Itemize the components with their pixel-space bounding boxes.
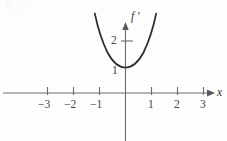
curve-label: f ′ (131, 11, 140, 23)
graph-figure: f ′ x 2 1 −3 −2 −1 1 2 3 (0, 0, 227, 141)
x-axis (3, 90, 215, 97)
x-axis-label: x (217, 87, 222, 99)
y-tick-label-1: 1 (112, 65, 118, 77)
x-tick-label-2: 2 (174, 99, 180, 111)
x-tick-label-neg1: −1 (90, 99, 102, 111)
y-tick-label-2: 2 (111, 35, 117, 47)
x-tick-label-3: 3 (200, 99, 206, 111)
y-axis (122, 22, 128, 141)
x-tick-label-neg3: −3 (38, 99, 50, 111)
x-tick-label-1: 1 (148, 99, 154, 111)
x-tick-label-neg2: −2 (64, 99, 76, 111)
